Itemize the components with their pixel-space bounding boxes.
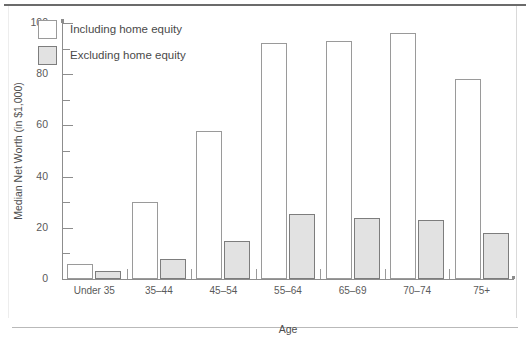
- bar-group: 70–74: [385, 23, 450, 279]
- top-rule: [4, 4, 526, 6]
- bar-excluding-home-equity[interactable]: [354, 218, 380, 279]
- x-tick-label: 45–54: [191, 285, 256, 296]
- x-tick-separator: [256, 269, 257, 279]
- frame-right-edge: [516, 6, 517, 318]
- x-tick-label: 70–74: [385, 285, 450, 296]
- x-tick-separator: [385, 269, 386, 279]
- bar-group: 65–69: [320, 23, 385, 279]
- x-tick-separator: [449, 269, 450, 279]
- y-tick-label: 20: [8, 222, 48, 233]
- bar-including-home-equity[interactable]: [390, 33, 416, 279]
- x-tick-separator: [191, 269, 192, 279]
- bar-group: 75+: [449, 23, 514, 279]
- legend-swatch-excluding-home-equity: [38, 46, 57, 65]
- legend-label-including-home-equity: Including home equity: [70, 23, 182, 35]
- bar-excluding-home-equity[interactable]: [224, 241, 250, 279]
- bar-excluding-home-equity[interactable]: [418, 220, 444, 279]
- x-tick-separator: [127, 269, 128, 279]
- bar-including-home-equity[interactable]: [455, 79, 481, 279]
- bar-excluding-home-equity[interactable]: [289, 214, 315, 279]
- bar-including-home-equity[interactable]: [261, 43, 287, 279]
- legend-label-excluding-home-equity: Excluding home equity: [70, 49, 186, 61]
- legend-item: Including home equity: [38, 16, 186, 42]
- figure-frame: 020406080100 Median Net Worth (in $1,000…: [0, 0, 530, 338]
- x-tick-label: 75+: [449, 285, 514, 296]
- bar-including-home-equity[interactable]: [196, 131, 222, 279]
- frame-left-edge: [8, 6, 9, 318]
- legend-swatch-including-home-equity: [38, 20, 57, 39]
- y-tick-label: 0: [8, 273, 48, 284]
- y-tick-major: [63, 279, 73, 280]
- legend-item: Excluding home equity: [38, 42, 186, 68]
- bar-excluding-home-equity[interactable]: [483, 233, 509, 279]
- bar-including-home-equity[interactable]: [326, 41, 352, 279]
- x-axis-label: Age: [62, 323, 514, 335]
- x-axis-line: [62, 279, 514, 280]
- x-tick-label: 65–69: [320, 285, 385, 296]
- x-tick-label: 55–64: [256, 285, 321, 296]
- bar-excluding-home-equity[interactable]: [160, 259, 186, 279]
- bar-group: 55–64: [256, 23, 321, 279]
- bar-group: 45–54: [191, 23, 256, 279]
- chart-legend: Including home equity Excluding home equ…: [38, 16, 186, 68]
- bar-excluding-home-equity[interactable]: [95, 271, 121, 279]
- y-axis-label: Median Net Worth (in $1,000): [12, 82, 24, 220]
- y-tick-label: 80: [8, 68, 48, 79]
- bar-including-home-equity[interactable]: [132, 202, 158, 279]
- x-tick-label: 35–44: [127, 285, 192, 296]
- x-tick-label: Under 35: [62, 285, 127, 296]
- bar-including-home-equity[interactable]: [67, 264, 93, 279]
- x-tick-separator: [320, 269, 321, 279]
